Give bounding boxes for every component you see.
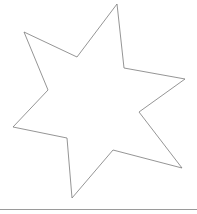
drawing-canvas[interactable] (0, 0, 197, 214)
star-shape[interactable] (13, 4, 185, 198)
star-drawing (0, 0, 197, 214)
bottom-divider-line (0, 209, 197, 210)
